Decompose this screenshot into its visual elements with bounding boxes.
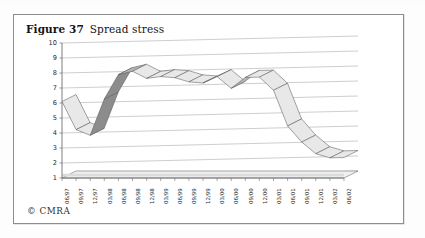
copyright-notice: © CMRA [27,206,70,216]
spread-stress-line-chart [14,15,405,225]
figure-frame: Figure 37Spread stress 12345678910 06/97… [13,14,404,224]
ribbon-segment [62,95,90,130]
ribbon-segment [90,92,118,135]
chart-plot-area: 12345678910 06/9709/9712/9703/9806/9809/… [14,15,405,225]
ribbon-segment [217,70,245,89]
data-ribbon [62,64,358,158]
page-edge [0,0,425,3]
ribbon-segment [274,83,302,126]
figure-screenshot: Figure 37Spread stress 12345678910 06/97… [0,0,425,238]
